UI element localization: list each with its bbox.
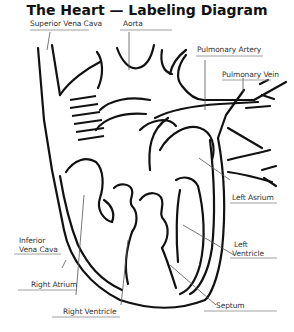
label-left-ventricle-line2: Ventricle [232, 249, 264, 258]
label-septum: Septum [216, 301, 245, 310]
label-pulmonary-vein: Pulmonary Vein [222, 70, 279, 79]
label-inferior-vena-cava-line1: Inferior [19, 236, 45, 245]
label-left-atrium: Left Asrium [232, 193, 274, 202]
label-superior-vena-cava: Superior Vena Cava [30, 19, 102, 28]
label-left-ventricle-line1: Left [234, 240, 248, 249]
heart-outline [38, 45, 286, 308]
leader-lines [47, 32, 243, 305]
label-pulmonary-artery: Pulmonary Artery [197, 45, 261, 54]
label-aorta: Aorta [123, 19, 143, 28]
label-right-atrium: Right Atrium [31, 280, 77, 289]
label-right-ventricle: Right Ventricle [63, 307, 116, 316]
label-inferior-vena-cava-line2: Vena Cava [19, 245, 58, 254]
vessel-stripes [70, 96, 104, 140]
